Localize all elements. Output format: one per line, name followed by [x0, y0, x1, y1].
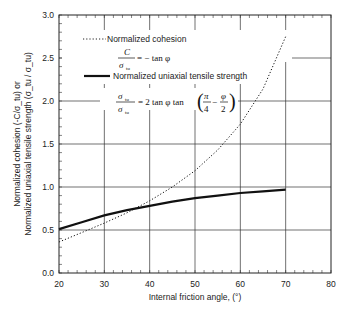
eq-pi: π — [204, 91, 209, 101]
y-tick-label: 2.5 — [42, 53, 54, 63]
x-tick-label: 30 — [100, 279, 110, 289]
y-tick-label: 3.0 — [42, 10, 54, 20]
y-axis-title-line2: Normalized uniaxial tensile strength (σ_… — [23, 52, 33, 236]
eq-t-num-sub: tu — [125, 97, 129, 102]
eq-t-numerator: σ — [118, 91, 123, 101]
paren-right: ) — [229, 90, 236, 113]
x-tick-label: 70 — [281, 279, 291, 289]
legend-cohesion-label: Normalized cohesion — [107, 34, 187, 44]
eq-c-den-sub: tu — [126, 66, 130, 71]
x-tick-label: 80 — [326, 279, 336, 289]
y-tick-labels: 0.00.51.01.52.02.53.0 — [42, 10, 54, 278]
tensile-strength-curve — [59, 190, 286, 230]
y-axis-title-line1: Normalized cohesion (-C/σ_tu) or — [12, 81, 22, 207]
eq-four: 4 — [204, 104, 209, 114]
chart: 20304050607080 0.00.51.01.52.02.53.0 Nor… — [0, 0, 343, 317]
eq-minus: − — [212, 97, 217, 107]
y-axis-title: Normalized cohesion (-C/σ_tu) or Normali… — [12, 52, 33, 236]
x-axis-title: Internal friction angle, (°) — [149, 292, 242, 302]
eq-t-rhs: = 2 tan φ tan — [138, 97, 184, 107]
y-tick-label: 0.0 — [42, 268, 54, 278]
x-tick-label: 40 — [145, 279, 155, 289]
eq-t-denominator: σ — [118, 104, 123, 114]
y-tick-label: 1.0 — [42, 182, 54, 192]
x-tick-label: 50 — [190, 279, 200, 289]
x-tick-label: 60 — [236, 279, 246, 289]
y-tick-label: 2.0 — [42, 96, 54, 106]
eq-t-den-sub: tu — [125, 110, 129, 115]
eq-c-numerator: C — [124, 47, 131, 57]
y-tick-label: 0.5 — [42, 225, 54, 235]
eq-phi: φ — [221, 91, 226, 101]
x-tick-labels: 20304050607080 — [54, 279, 336, 289]
eq-c-denominator: σ — [119, 60, 124, 70]
x-tick-label: 20 — [54, 279, 64, 289]
eq-two: 2 — [221, 104, 226, 114]
y-tick-label: 1.5 — [42, 139, 54, 149]
legend-tensile-label: Normalized uniaxial tensile strength — [113, 71, 247, 81]
paren-left: ( — [197, 90, 204, 113]
eq-c-rhs: = − tan φ — [137, 53, 170, 63]
